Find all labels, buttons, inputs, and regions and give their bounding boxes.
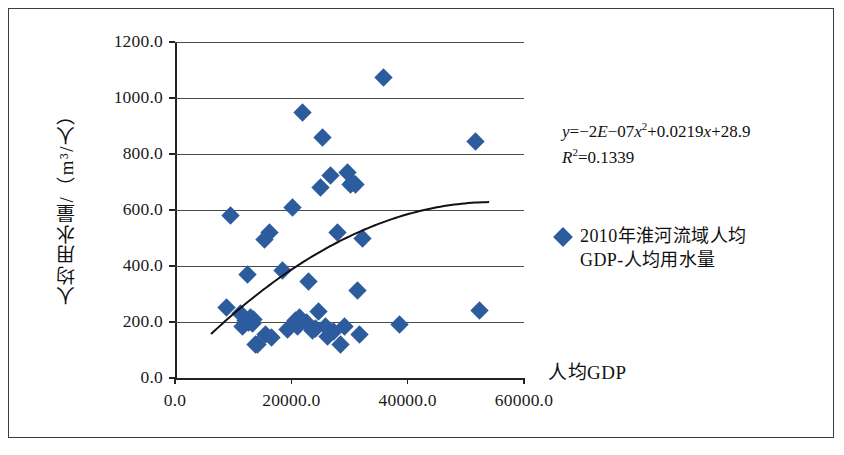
x-axis-tick xyxy=(407,378,408,384)
legend-label-line-1: 2010年淮河流域人均 xyxy=(580,224,746,248)
equation-line: y=−2E−07x2+0.0219x+28.9 xyxy=(562,118,751,144)
y-axis-tick-label: 800.0 xyxy=(123,143,163,164)
y-axis-tick xyxy=(169,265,175,266)
y-axis-title-text: 人均用水量/（m³/人） xyxy=(53,104,80,305)
data-point-marker xyxy=(466,132,484,150)
y-axis-tick-label: 1000.0 xyxy=(114,87,163,108)
data-point-marker xyxy=(239,265,257,283)
data-point-marker xyxy=(351,325,369,343)
data-point-marker xyxy=(314,129,332,147)
y-axis-tick-label: 1200.0 xyxy=(114,31,163,52)
trendline-equation: y=−2E−07x2+0.0219x+28.9 R2=0.1339 xyxy=(562,118,751,170)
x-axis-tick-label: 20000.0 xyxy=(231,390,351,411)
data-point-marker xyxy=(273,261,291,279)
x-axis-tick-label: 0.0 xyxy=(115,390,235,411)
gridline xyxy=(175,42,524,43)
chart-legend: 2010年淮河流域人均 GDP-人均用水量 xyxy=(556,224,746,273)
equation-body: =−2E−07x2+0.0219x+28.9 xyxy=(570,122,751,141)
y-axis-title: 人均用水量/（m³/人） xyxy=(46,60,86,350)
x-axis-tick xyxy=(291,378,292,384)
chart-figure: 人均用水量/（m³/人） 人均GDP y=−2E−07x2+0.0219x+28… xyxy=(0,0,844,455)
x-axis-tick-label: 60000.0 xyxy=(464,390,584,411)
legend-label-line-2: GDP-人均用水量 xyxy=(580,248,746,272)
r-squared-var: R xyxy=(562,148,572,167)
x-axis-tick xyxy=(174,378,175,384)
data-point-marker xyxy=(283,198,301,216)
legend-entry-label: 2010年淮河流域人均 GDP-人均用水量 xyxy=(580,224,746,273)
y-axis-tick-label: 600.0 xyxy=(123,199,163,220)
data-point-marker xyxy=(354,229,372,247)
data-point-marker xyxy=(300,272,318,290)
y-axis-tick-label: 200.0 xyxy=(123,311,163,332)
legend-diamond-marker-icon xyxy=(553,227,573,247)
x-axis-tick-label: 40000.0 xyxy=(348,390,468,411)
gridline xyxy=(175,266,524,267)
data-point-marker xyxy=(348,281,366,299)
x-axis-tick xyxy=(523,378,524,384)
y-axis-tick xyxy=(169,321,175,322)
y-axis-tick-label: 400.0 xyxy=(123,255,163,276)
x-axis-line xyxy=(175,378,524,380)
plot-area xyxy=(175,42,524,378)
r-squared-line: R2=0.1339 xyxy=(562,144,751,170)
y-axis-tick xyxy=(169,41,175,42)
gridline xyxy=(175,98,524,99)
y-axis-tick-label: 0.0 xyxy=(141,367,163,388)
r-squared-value: =0.1339 xyxy=(578,148,634,167)
data-point-marker xyxy=(390,316,408,334)
y-axis-tick xyxy=(169,153,175,154)
gridline xyxy=(175,154,524,155)
data-point-marker xyxy=(293,103,311,121)
data-point-marker xyxy=(374,69,392,87)
y-axis-tick xyxy=(169,97,175,98)
data-point-marker xyxy=(328,223,346,241)
y-axis-tick xyxy=(169,209,175,210)
x-axis-title: 人均GDP xyxy=(548,357,627,384)
equation-y-var: y xyxy=(562,122,570,141)
data-point-marker xyxy=(471,302,489,320)
